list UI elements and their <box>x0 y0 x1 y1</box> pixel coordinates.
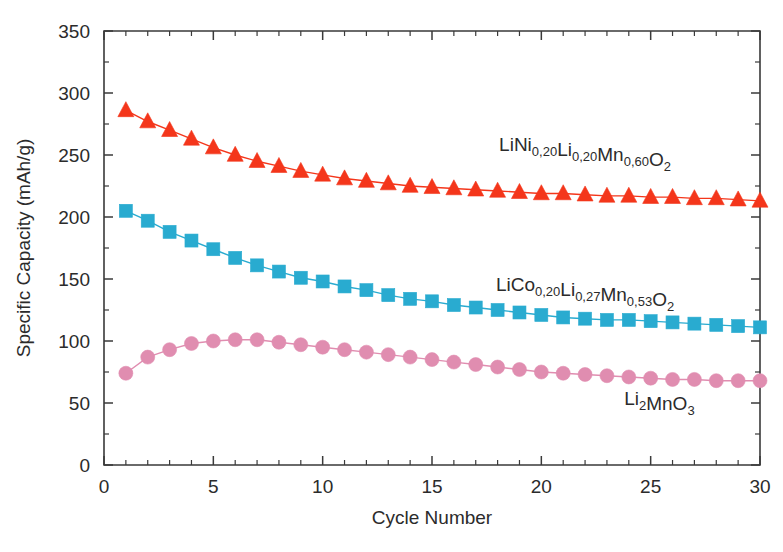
data-point-triangle <box>752 192 768 207</box>
y-axis-title: Specific Capacity (mAh/g) <box>13 139 34 358</box>
data-point-circle <box>163 343 177 357</box>
data-point-circle <box>666 372 680 386</box>
data-point-square <box>229 251 242 264</box>
data-point-square <box>119 204 132 217</box>
data-point-square <box>207 243 220 256</box>
y-tick-label: 200 <box>58 207 90 228</box>
data-point-triangle <box>599 187 615 202</box>
data-point-circle <box>534 365 548 379</box>
data-point-triangle <box>205 139 221 154</box>
series-annotation-3: Li2MnO3 <box>624 388 694 418</box>
data-point-circle <box>731 374 745 388</box>
data-point-square <box>644 315 657 328</box>
data-point-square <box>535 308 548 321</box>
data-point-circle <box>359 345 373 359</box>
data-point-circle <box>272 335 286 349</box>
data-point-square <box>600 313 613 326</box>
data-point-triangle <box>183 130 199 145</box>
data-point-circle <box>316 340 330 354</box>
data-point-triangle <box>446 180 462 195</box>
data-point-triangle <box>577 186 593 201</box>
data-point-square <box>404 292 417 305</box>
data-point-square <box>513 306 526 319</box>
x-tick-label: 25 <box>640 476 661 497</box>
data-point-square <box>688 317 701 330</box>
data-point-circle <box>491 360 505 374</box>
data-point-triangle <box>511 184 527 199</box>
x-axis-title: Cycle Number <box>372 507 493 528</box>
series-3 <box>119 333 767 388</box>
data-point-square <box>732 320 745 333</box>
data-point-square <box>382 289 395 302</box>
data-point-triangle <box>555 185 571 200</box>
data-point-square <box>294 271 307 284</box>
x-tick-label: 0 <box>99 476 110 497</box>
data-point-triangle <box>424 179 440 194</box>
data-point-circle <box>556 366 570 380</box>
data-point-circle <box>294 338 308 352</box>
x-tick-label: 15 <box>421 476 442 497</box>
data-point-triangle <box>665 188 681 203</box>
data-point-triangle <box>643 188 659 203</box>
series-annotation-1: LiNi0,20Li0,20Mn0,60O2 <box>499 134 671 174</box>
chart-figure: 051015202530050100150200250300350 LiNi0,… <box>0 0 783 552</box>
data-point-circle <box>512 363 526 377</box>
data-point-circle <box>403 350 417 364</box>
data-point-circle <box>600 369 614 383</box>
data-point-triangle <box>533 185 549 200</box>
data-point-square <box>185 234 198 247</box>
data-point-square <box>360 284 373 297</box>
y-tick-label: 100 <box>58 331 90 352</box>
data-point-triangle <box>708 190 724 205</box>
x-tick-label: 10 <box>312 476 333 497</box>
data-point-square <box>272 265 285 278</box>
data-point-circle <box>447 355 461 369</box>
y-tick-label: 50 <box>69 393 90 414</box>
data-point-circle <box>644 371 658 385</box>
data-point-triangle <box>621 187 637 202</box>
y-tick-label: 250 <box>58 145 90 166</box>
data-point-circle <box>206 334 220 348</box>
data-point-triangle <box>118 102 134 117</box>
data-point-square <box>579 312 592 325</box>
data-point-circle <box>119 366 133 380</box>
x-tick-label: 20 <box>531 476 552 497</box>
data-point-square <box>622 313 635 326</box>
data-point-circle <box>250 333 264 347</box>
y-tick-label: 350 <box>58 21 90 42</box>
data-point-square <box>163 225 176 238</box>
data-point-triangle <box>730 191 746 206</box>
data-point-triangle <box>162 122 178 137</box>
x-tick-label: 5 <box>208 476 219 497</box>
data-point-square <box>710 318 723 331</box>
annotations-group: LiNi0,20Li0,20Mn0,60O2LiCo0,20Li0,27Mn0,… <box>496 134 695 418</box>
data-point-circle <box>338 343 352 357</box>
y-tick-label: 300 <box>58 83 90 104</box>
data-point-triangle <box>686 190 702 205</box>
data-point-circle <box>709 374 723 388</box>
data-point-square <box>141 214 154 227</box>
data-point-circle <box>469 358 483 372</box>
series-line <box>126 110 760 201</box>
data-point-square <box>338 280 351 293</box>
series-1 <box>118 102 768 208</box>
data-point-circle <box>425 353 439 367</box>
series-2 <box>119 204 766 334</box>
series-line <box>126 340 760 381</box>
chart-canvas: 051015202530050100150200250300350 LiNi0,… <box>0 0 783 552</box>
data-point-square <box>557 311 570 324</box>
x-tick-label: 30 <box>749 476 770 497</box>
series-group <box>118 102 768 388</box>
tick-labels-group: 051015202530050100150200250300350 <box>58 21 770 497</box>
y-tick-label: 0 <box>79 455 90 476</box>
data-point-square <box>491 304 504 317</box>
data-point-square <box>447 299 460 312</box>
data-point-square <box>251 259 264 272</box>
data-point-circle <box>622 370 636 384</box>
data-point-square <box>426 295 439 308</box>
data-point-circle <box>753 374 767 388</box>
data-point-circle <box>228 333 242 347</box>
data-point-square <box>754 321 767 334</box>
data-point-triangle <box>490 182 506 197</box>
data-point-circle <box>184 336 198 350</box>
